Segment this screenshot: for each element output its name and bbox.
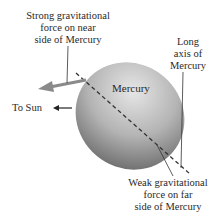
strong-force-leader	[67, 46, 68, 83]
long-axis-label: Long axis of Mercury	[164, 36, 212, 72]
to-sun-label: To Sun	[12, 102, 42, 114]
weak-force-label: Weak gravitational force on far side of …	[122, 177, 214, 213]
to-sun-arrowhead	[53, 105, 59, 111]
strong-force-arrow	[50, 80, 86, 87]
strong-force-label: Strong gravitational force on near side …	[22, 10, 114, 46]
planet-label: Mercury	[112, 82, 150, 94]
strong-force-arrowhead	[38, 81, 54, 92]
